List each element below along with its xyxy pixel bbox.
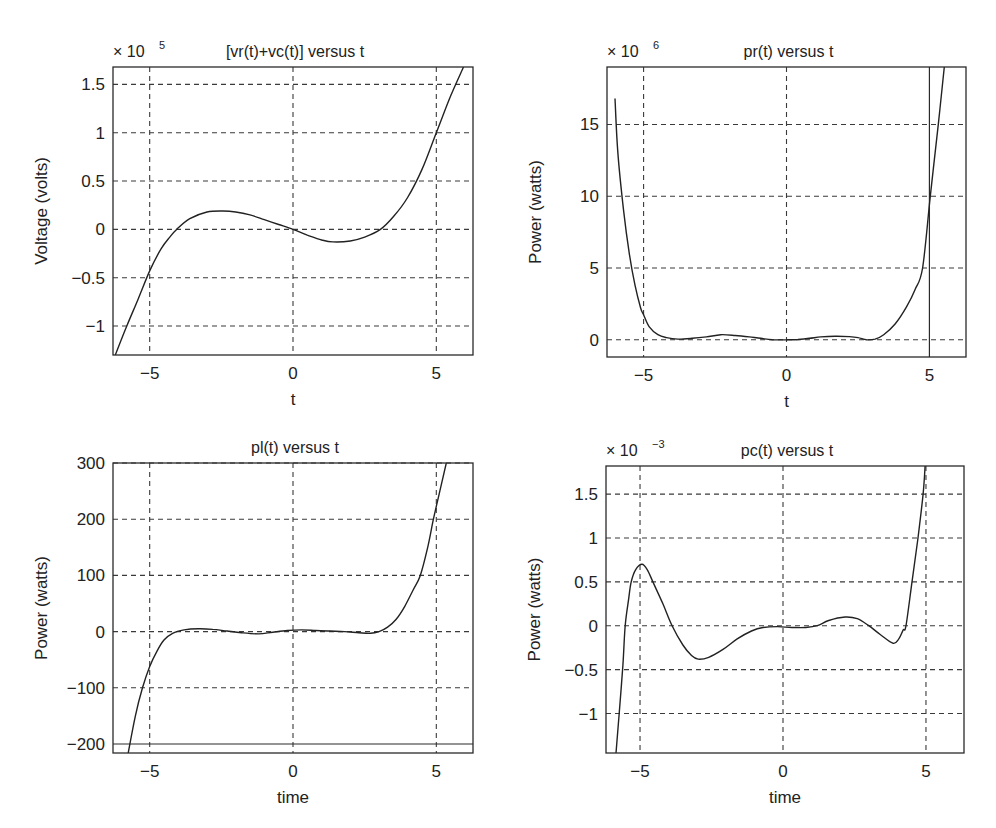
x-tick-label: 0 [288, 762, 297, 781]
subplot-pr: −505051015pr(t) versus ttPower (watts)× … [526, 39, 966, 411]
y-axis-label: Power (watts) [525, 558, 544, 662]
y-tick-label: 0.5 [81, 172, 105, 191]
figure: −505−1−0.500.511.5[vr(t)+vc(t)] versus t… [0, 0, 996, 828]
subplot-vr-vc: −505−1−0.500.511.5[vr(t)+vc(t)] versus t… [32, 39, 473, 409]
y-tick-label: −1 [86, 317, 105, 336]
y-tick-label: 15 [580, 115, 599, 134]
series-line-pc-t- [616, 466, 925, 753]
series-line-pl-t- [128, 463, 446, 753]
y-tick-label: 1 [589, 529, 598, 548]
y-tick-label: −0.5 [564, 661, 598, 680]
series-line-pr-t- [615, 67, 944, 340]
x-tick-label: 5 [925, 366, 934, 385]
subplot-title: [vr(t)+vc(t)] versus t [226, 43, 365, 60]
axes-frame [606, 466, 964, 753]
y-tick-label: 1.5 [81, 75, 105, 94]
x-axis-label: t [291, 390, 296, 409]
y-tick-label: 5 [590, 259, 599, 278]
subplot-title: pl(t) versus t [251, 439, 340, 456]
x-tick-label: 0 [778, 762, 787, 781]
y-tick-label: 300 [77, 454, 105, 473]
subplot-pc: −505−1−0.500.511.5pc(t) versus ttimePowe… [525, 438, 964, 807]
y-axis-label: Power (watts) [32, 556, 51, 660]
y-axis-label: Power (watts) [526, 160, 545, 264]
x-tick-label: 5 [432, 762, 441, 781]
y-tick-label: 0 [590, 331, 599, 350]
subplot-pl: −505−200−1000100200300pl(t) versus ttime… [32, 439, 473, 807]
y-axis-multiplier-exponent: 5 [159, 39, 165, 51]
x-tick-label: −5 [634, 366, 653, 385]
y-tick-label: −1 [579, 705, 598, 724]
subplot-title: pr(t) versus t [744, 43, 834, 60]
x-tick-label: −5 [140, 364, 159, 383]
y-axis-multiplier-exponent: 6 [653, 39, 659, 51]
subplot-title: pc(t) versus t [741, 442, 834, 459]
y-axis-multiplier: × 10 [113, 43, 145, 60]
x-tick-label: −5 [630, 762, 649, 781]
x-tick-label: 5 [432, 364, 441, 383]
y-tick-label: 1 [96, 124, 105, 143]
x-axis-label: time [769, 788, 801, 807]
x-axis-label: t [784, 392, 789, 411]
y-tick-label: 1.5 [574, 485, 598, 504]
y-axis-label: Voltage (volts) [32, 157, 51, 265]
y-tick-label: 0 [589, 617, 598, 636]
series-line-vr-t-vc-t- [115, 67, 463, 355]
y-tick-label: 200 [77, 510, 105, 529]
y-tick-label: 0 [96, 623, 105, 642]
x-tick-label: 0 [288, 364, 297, 383]
y-tick-label: 0.5 [574, 573, 598, 592]
y-tick-label: 100 [77, 566, 105, 585]
y-tick-label: −100 [67, 679, 105, 698]
x-tick-label: 5 [921, 762, 930, 781]
y-tick-label: −0.5 [71, 269, 105, 288]
y-axis-multiplier-exponent: −3 [652, 438, 665, 450]
x-axis-label: time [277, 788, 309, 807]
y-axis-multiplier: × 10 [606, 442, 638, 459]
y-tick-label: 10 [580, 187, 599, 206]
y-axis-multiplier: × 10 [607, 43, 639, 60]
x-tick-label: −5 [140, 762, 159, 781]
y-tick-label: 0 [96, 220, 105, 239]
y-tick-label: −200 [67, 735, 105, 754]
x-tick-label: 0 [782, 366, 791, 385]
